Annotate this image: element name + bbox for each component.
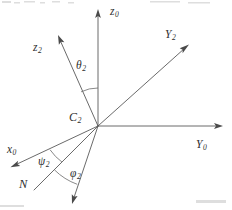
label-n-line-of-nodes: N xyxy=(19,178,28,193)
label-y0: Y0 xyxy=(196,139,207,152)
label-theta2: θ2 xyxy=(76,60,86,73)
axis-x2 xyxy=(72,126,98,204)
axis-y0 xyxy=(98,123,223,129)
label-y2: Y2 xyxy=(165,29,176,42)
axis-y2 xyxy=(98,45,189,127)
scan-artifacts xyxy=(0,1,226,207)
label-psi2: ψ2 xyxy=(38,156,49,169)
label-z0: z0 xyxy=(110,6,119,19)
arc-psi2 xyxy=(50,150,62,162)
arc-theta2 xyxy=(81,88,98,92)
euler-angle-diagram: z0 Y2 z2 θ2 C2 Y0 x0 ψ2 φ2 N xyxy=(0,0,232,210)
label-z2: z2 xyxy=(33,42,42,55)
label-x0: x0 xyxy=(7,144,16,157)
axis-z0 xyxy=(95,9,101,126)
axis-x0-arrowhead xyxy=(11,161,21,168)
diagram-canvas xyxy=(0,0,232,210)
axis-x0 xyxy=(11,126,99,167)
label-phi2: φ2 xyxy=(70,168,81,181)
label-origin-c2: C2 xyxy=(69,111,81,125)
